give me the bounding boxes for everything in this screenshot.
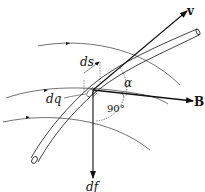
field-vector [93, 90, 193, 101]
force-label: df [86, 181, 98, 192]
field-label: B [194, 96, 204, 108]
wire-end-cap-top [195, 28, 201, 35]
field-line-1 [38, 43, 180, 85]
ds-label: ds [80, 56, 94, 68]
field-line-arrows [26, 42, 70, 119]
right-angle-label: 90° [107, 104, 125, 114]
dq-label: dq [46, 93, 61, 105]
diagram-canvas [0, 0, 205, 192]
velocity-label: v [187, 5, 194, 17]
field-line-3 [3, 118, 150, 150]
field-arrow-icon [66, 42, 70, 45]
dq-leader [64, 94, 86, 98]
alpha-label: α [124, 77, 132, 89]
